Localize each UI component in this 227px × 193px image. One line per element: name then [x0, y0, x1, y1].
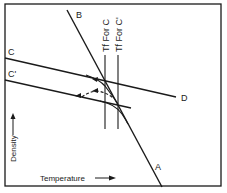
tf-c-prime-label: Tf For C' — [114, 17, 124, 52]
label-c: C — [8, 47, 15, 57]
x-axis-arrow-icon — [109, 176, 116, 181]
label-d: D — [181, 93, 188, 103]
density-temperature-diagram: Tf For C Tf For C' B C C' D A Density Te… — [0, 0, 227, 193]
label-a: A — [155, 162, 161, 172]
label-b: B — [76, 10, 82, 20]
line-c-d — [5, 58, 176, 97]
label-c-prime: C' — [8, 69, 16, 79]
y-axis-label: Density — [9, 135, 18, 162]
tf-c-label: Tf For C — [101, 19, 111, 52]
y-axis-arrow-icon — [11, 113, 16, 119]
x-axis-label: Temperature — [40, 174, 85, 183]
